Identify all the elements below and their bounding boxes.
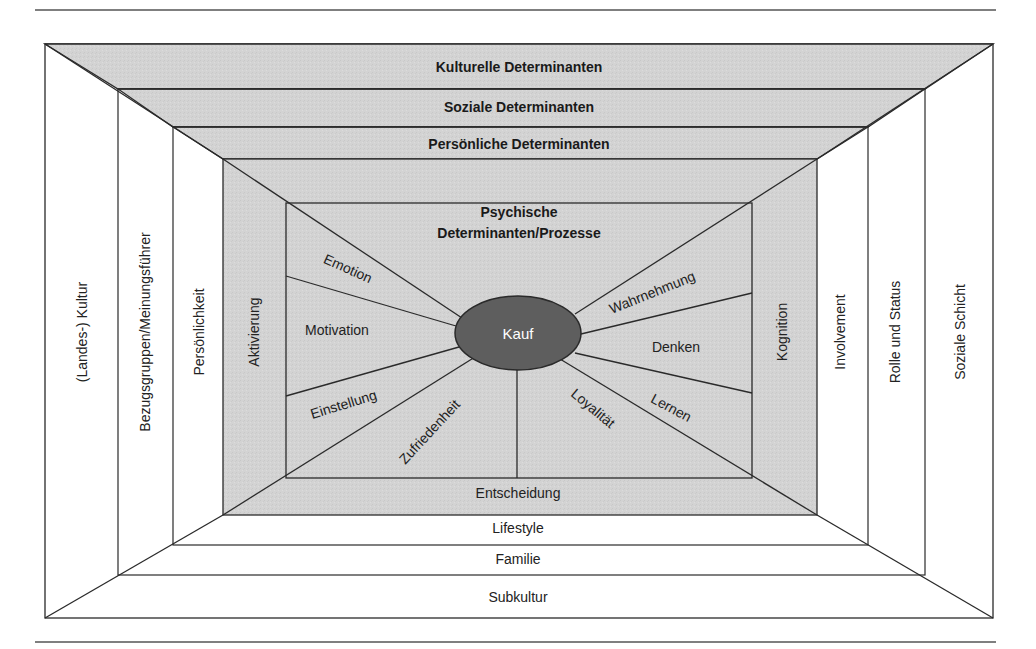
label-landes-kultur: (Landes-) Kultur [74,281,90,382]
label-rolle-und-status: Rolle und Status [887,281,903,384]
label-kognition: Kognition [774,303,790,361]
label-soziale-schicht: Soziale Schicht [952,284,968,380]
label-determinanten-prozesse: Determinanten/Prozesse [437,225,601,241]
label-kulturelle-determinanten: Kulturelle Determinanten [436,59,602,75]
label-bezugsgruppen: Bezugsgruppen/Meinungsführer [137,232,153,432]
label-entscheidung: Entscheidung [476,485,561,501]
consumer-behavior-determinants-diagram: Kauf Kulturelle Determinanten Soziale De… [0,0,1036,649]
label-denken: Denken [652,339,700,355]
label-aktivierung: Aktivierung [246,297,262,366]
label-persoenliche-determinanten: Persönliche Determinanten [428,136,609,152]
kauf-label: Kauf [503,325,535,342]
label-subkultur: Subkultur [488,589,547,605]
label-soziale-determinanten: Soziale Determinanten [444,99,594,115]
label-psychische: Psychische [480,204,557,220]
label-motivation: Motivation [305,322,369,338]
label-lifestyle: Lifestyle [492,520,544,536]
label-involvement: Involvement [832,294,848,370]
label-persoenlichkeit: Persönlichkeit [191,288,207,375]
label-familie: Familie [495,551,540,567]
